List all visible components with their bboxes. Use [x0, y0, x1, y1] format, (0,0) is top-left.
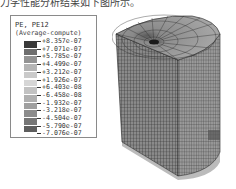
- legend-value: +3.212e-07: [42, 69, 82, 76]
- legend-tick: [37, 87, 41, 88]
- legend-tick: [37, 95, 41, 96]
- legend-swatch: [24, 49, 37, 57]
- legend-tick: [37, 80, 41, 81]
- legend-swatch: [24, 87, 37, 95]
- legend-tick: [37, 56, 41, 57]
- legend-tick: [37, 133, 41, 134]
- legend-swatch: [24, 80, 37, 88]
- fea-mesh-model: [112, 12, 224, 180]
- contour-legend: PE, PE12 (Average-compute) +8.357e-07+7.…: [10, 15, 97, 138]
- legend-value: +8.357e-07: [42, 38, 82, 45]
- legend-tick: [37, 110, 41, 111]
- legend-tick: [37, 103, 41, 104]
- legend-swatch: [24, 110, 37, 118]
- caption-text: 力学性能分析结果如下图所示。: [0, 0, 236, 9]
- legend-value: -6.458e-08: [42, 92, 82, 99]
- legend-tick: [37, 72, 41, 73]
- legend-title: PE, PE12: [15, 21, 49, 29]
- legend-tick: [37, 118, 41, 119]
- legend-swatch: [24, 126, 37, 134]
- legend-tick: [37, 41, 41, 42]
- legend-tick: [37, 49, 41, 50]
- legend-swatch: [24, 118, 37, 126]
- legend-tick: [37, 64, 41, 65]
- legend-swatch: [24, 95, 37, 103]
- legend-value: -7.076e-07: [42, 130, 82, 137]
- legend-swatch: [24, 56, 37, 64]
- legend-swatch: [24, 72, 37, 80]
- legend-tick: [37, 126, 41, 127]
- legend-swatch: [24, 64, 37, 72]
- legend-swatch: [24, 41, 37, 49]
- legend-swatch: [24, 103, 37, 111]
- legend-value: -4.504e-07: [42, 115, 82, 122]
- legend-subtitle: (Average-compute): [15, 29, 82, 37]
